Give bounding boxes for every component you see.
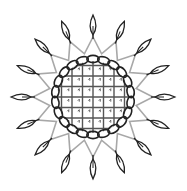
petal — [113, 150, 127, 174]
chain-link — [75, 55, 89, 65]
petal — [146, 63, 170, 77]
petal — [59, 150, 73, 174]
petal — [16, 63, 40, 77]
chain-link — [115, 65, 129, 79]
petal — [33, 37, 54, 58]
petal — [90, 155, 95, 179]
petal — [132, 136, 153, 157]
chain-link — [115, 115, 129, 129]
chain-link — [58, 115, 72, 129]
petal — [132, 37, 153, 58]
petal — [11, 94, 35, 99]
petal — [151, 94, 175, 99]
petal — [16, 117, 40, 131]
petal — [33, 136, 54, 157]
petal — [90, 15, 95, 39]
chain-link — [58, 65, 72, 79]
petal — [113, 20, 127, 44]
petal — [146, 117, 170, 131]
petal — [59, 20, 73, 44]
sunflower-illustration — [0, 0, 187, 191]
